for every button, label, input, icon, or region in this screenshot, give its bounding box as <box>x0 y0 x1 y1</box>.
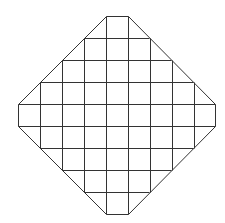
octagon-outline <box>19 17 216 215</box>
octagonal-grid-diagram <box>0 0 225 223</box>
vertical-grid-lines <box>41 17 195 215</box>
horizontal-grid-lines <box>19 39 216 193</box>
diagram-canvas <box>0 0 225 223</box>
